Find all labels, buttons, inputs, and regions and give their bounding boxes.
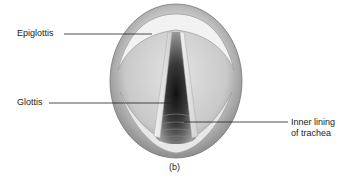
label-epiglottis: Epiglottis [17, 28, 54, 39]
larynx-diagram: Epiglottis Glottis Inner lining of trach… [0, 0, 359, 182]
figure-caption: (b) [169, 162, 180, 172]
label-inner-lining: Inner lining of trachea [291, 117, 335, 139]
label-inner-lining-line1: Inner lining [291, 117, 335, 128]
label-inner-lining-line2: of trachea [291, 128, 335, 139]
label-glottis: Glottis [17, 97, 43, 108]
